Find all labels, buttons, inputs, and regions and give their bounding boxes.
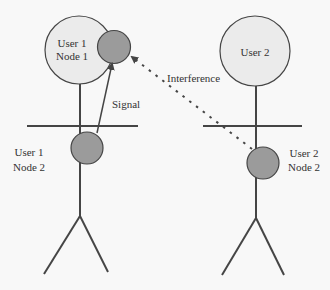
user1-node2-label-line2: Node 2 <box>13 161 45 173</box>
user1-left-leg <box>44 216 80 274</box>
user1-node2 <box>71 132 103 164</box>
user2-head-label: User 2 <box>240 46 269 58</box>
user2-node2 <box>247 147 279 179</box>
user1-head-label-line1: User 1 <box>57 37 86 49</box>
user2-left-leg <box>222 218 256 275</box>
user1-node2-label-line1: User 1 <box>14 146 43 158</box>
user2-node2-label-line2: Node 2 <box>288 161 320 173</box>
user1-right-leg <box>80 216 108 272</box>
interference-label: Interference <box>167 72 220 84</box>
user1-node1 <box>98 31 131 64</box>
user1-figure: User 1 Node 1 User 1 Node 2 <box>13 16 138 274</box>
user1-head-label-line2: Node 1 <box>56 50 88 62</box>
user2-node2-label-line1: User 2 <box>289 147 318 159</box>
user2-figure: User 2 User 2 Node 2 <box>203 16 320 275</box>
user2-right-leg <box>256 218 284 275</box>
signal-label: Signal <box>112 98 140 110</box>
body-area-network-diagram: User 1 Node 1 User 1 Node 2 User 2 User … <box>0 0 330 290</box>
